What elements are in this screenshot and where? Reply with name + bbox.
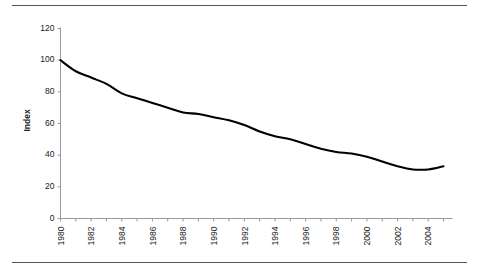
y-axis-title: Index	[22, 109, 32, 131]
x-tick-label: 1982	[86, 226, 96, 245]
y-tick-label: 20	[45, 181, 55, 191]
x-tick-label: 1992	[240, 226, 250, 245]
y-tick-label: 60	[45, 118, 55, 128]
line-chart: 020406080100120 198019821984198619881990…	[0, 0, 477, 270]
y-axis	[58, 28, 61, 219]
x-tick-label: 1984	[117, 226, 127, 245]
x-tick-label: 2002	[393, 226, 403, 245]
x-tick-label: 2000	[362, 226, 372, 245]
y-axis-title-label: Index	[22, 109, 32, 131]
x-tick-label: 1996	[301, 226, 311, 245]
x-tick-label: 1986	[148, 226, 158, 245]
y-tick-label: 0	[50, 213, 55, 223]
x-tick-label: 1998	[331, 226, 341, 245]
x-tick-label: 1988	[178, 226, 188, 245]
x-tick-labels: 1980198219841986198819901992199419961998…	[56, 226, 434, 245]
x-tick-label: 2004	[423, 226, 433, 245]
y-tick-label: 120	[40, 23, 54, 33]
x-tick-label: 1994	[270, 226, 280, 245]
x-tick-label: 1990	[209, 226, 219, 245]
chart-figure: 020406080100120 198019821984198619881990…	[0, 0, 477, 270]
index-line-series	[61, 60, 444, 170]
x-tick-label: 1980	[56, 226, 66, 245]
y-tick-label: 40	[45, 149, 55, 159]
y-tick-labels: 020406080100120	[40, 23, 54, 223]
x-axis	[61, 219, 453, 222]
y-tick-label: 100	[40, 54, 54, 64]
y-tick-label: 80	[45, 86, 55, 96]
